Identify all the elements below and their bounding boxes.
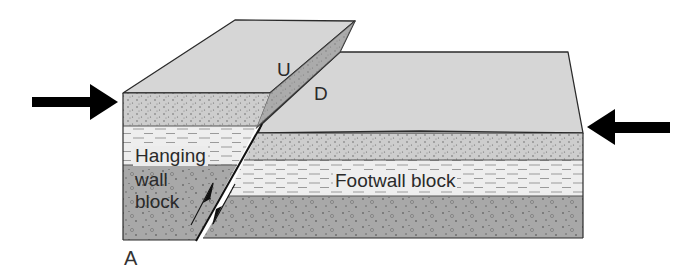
hanging-wall-label-line2: wall	[135, 170, 168, 190]
upthrown-label: U	[277, 60, 291, 80]
compression-arrow-right-icon	[587, 109, 670, 145]
hanging-wall-label-line1: Hanging	[133, 146, 208, 166]
downthrown-label: D	[314, 84, 328, 104]
compression-arrow-left-icon	[32, 84, 118, 120]
footwall-label: Footwall block	[333, 171, 457, 191]
panel-label: A	[124, 248, 137, 268]
reverse-fault-diagram	[0, 0, 693, 271]
hanging-wall-label-line3: block	[135, 192, 179, 212]
